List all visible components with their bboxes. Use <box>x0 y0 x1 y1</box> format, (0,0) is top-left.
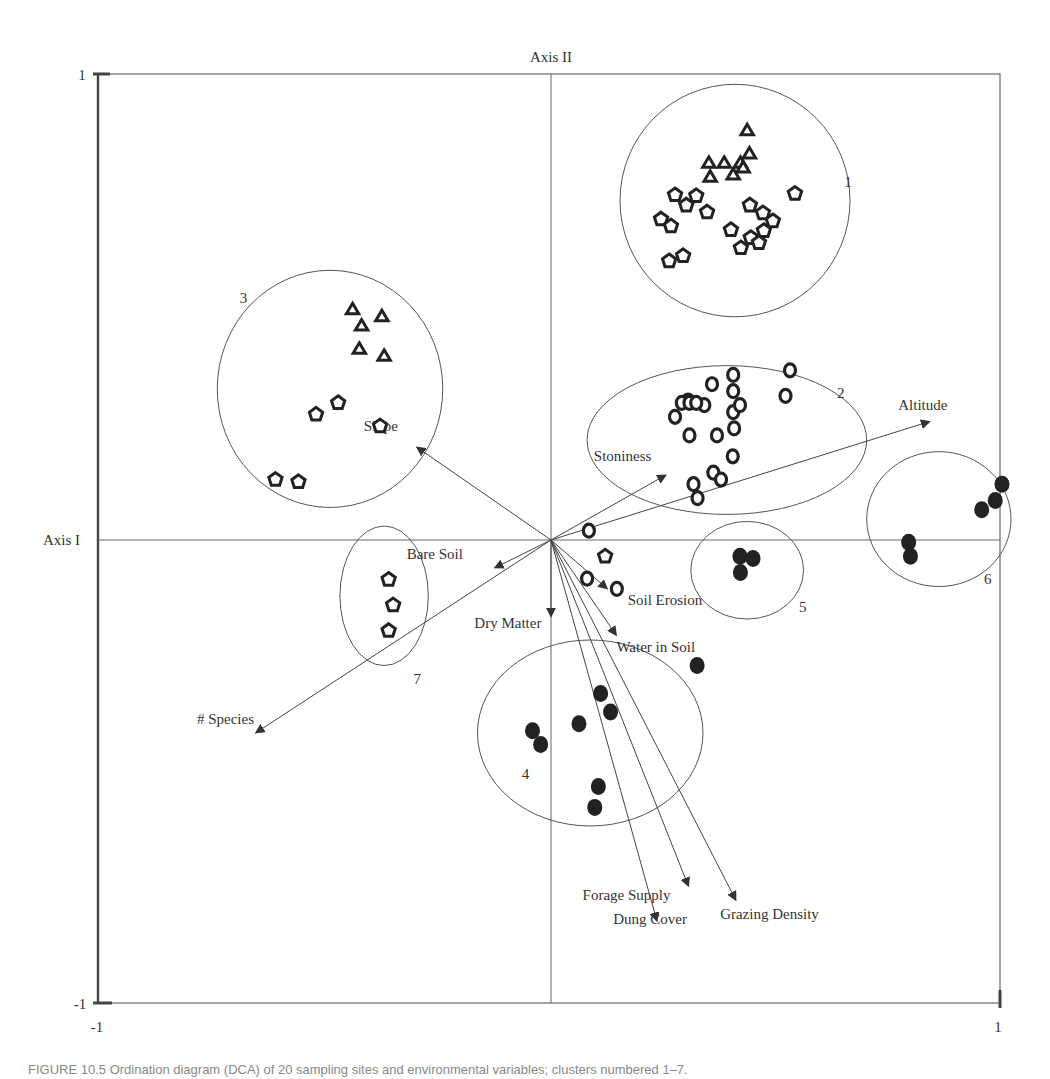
pentagon-marker-icon <box>664 219 677 232</box>
triangle-marker-icon <box>355 320 367 330</box>
circle-marker-icon <box>785 364 796 377</box>
pentagon-marker-icon <box>332 396 345 409</box>
filled-circle-marker-icon <box>732 548 747 565</box>
axis-i-label: Axis I <box>43 532 80 548</box>
circle-marker-icon <box>611 582 622 595</box>
vector-label: Dung Cover <box>613 911 687 927</box>
cluster-label: 1 <box>844 174 852 190</box>
circle-marker-icon <box>727 450 738 463</box>
filled-circle-marker-icon <box>587 799 602 816</box>
series-filled-circle <box>525 476 1009 816</box>
cluster-3: 3 <box>217 270 443 507</box>
pentagon-marker-icon <box>382 624 395 637</box>
pentagon-marker-icon <box>663 254 676 267</box>
cluster-ellipse <box>867 452 1011 587</box>
cluster-label: 3 <box>240 290 248 306</box>
triangle-marker-icon <box>704 171 716 181</box>
pentagon-marker-icon <box>387 598 400 611</box>
vector-label: Forage Supply <box>583 887 671 903</box>
circle-marker-icon <box>583 524 594 537</box>
cluster-label: 6 <box>984 571 992 587</box>
pentagon-marker-icon <box>700 205 713 218</box>
vector-species: # Species <box>197 540 551 733</box>
vector-label: Stoniness <box>594 448 652 464</box>
vector-label: Dry Matter <box>474 615 541 631</box>
vector-stoniness: Stoniness <box>551 448 666 540</box>
series-circle <box>582 364 796 596</box>
cluster-label: 5 <box>799 599 807 615</box>
triangle-marker-icon <box>743 148 755 158</box>
pentagon-marker-icon <box>292 475 305 488</box>
vector-dry-matter: Dry Matter <box>474 540 551 631</box>
circle-marker-icon <box>728 368 739 381</box>
filled-circle-marker-icon <box>593 685 608 702</box>
cluster-label: 7 <box>413 671 421 687</box>
triangle-marker-icon <box>376 310 388 320</box>
y-max-tick-label: 1 <box>78 67 86 83</box>
circle-marker-icon <box>582 572 593 585</box>
circle-marker-icon <box>684 429 695 442</box>
y-min-tick-label: -1 <box>74 996 87 1012</box>
cluster-4: 4 <box>477 640 703 826</box>
pentagon-marker-icon <box>743 198 756 211</box>
vector-label: # Species <box>197 711 254 727</box>
pentagon-marker-icon <box>734 241 747 254</box>
vector-label: Water in Soil <box>616 639 695 655</box>
pentagon-marker-icon <box>668 188 681 201</box>
x-max-tick-label: 1 <box>994 1019 1002 1035</box>
cluster-label: 4 <box>522 766 530 782</box>
pentagon-marker-icon <box>788 187 801 200</box>
circle-marker-icon <box>716 473 727 486</box>
x-min-tick-label: -1 <box>91 1019 104 1035</box>
cluster-label: 2 <box>837 385 845 401</box>
vector-altitude: Altitude <box>551 397 948 540</box>
filled-circle-marker-icon <box>603 704 618 721</box>
cluster-5: 5 <box>691 521 807 619</box>
arrow-icon <box>551 475 666 540</box>
pentagon-marker-icon <box>680 198 693 211</box>
pentagon-marker-icon <box>752 236 765 249</box>
filled-circle-marker-icon <box>690 657 705 674</box>
vector-label: Bare Soil <box>407 546 463 562</box>
circle-marker-icon <box>688 478 699 491</box>
pentagon-marker-icon <box>766 214 779 227</box>
filled-circle-marker-icon <box>746 550 761 567</box>
circle-marker-icon <box>728 385 739 398</box>
filled-circle-marker-icon <box>525 722 540 739</box>
filled-circle-marker-icon <box>974 501 989 518</box>
filled-circle-marker-icon <box>903 548 918 565</box>
vector-label: Altitude <box>898 397 948 413</box>
vector-slope: Slope <box>364 418 551 540</box>
pentagon-marker-icon <box>599 549 612 562</box>
triangle-marker-icon <box>718 157 730 167</box>
pentagon-marker-icon <box>382 573 395 586</box>
environmental-vectors: AltitudeStoninessSlopeBare Soil# Species… <box>197 397 948 927</box>
circle-marker-icon <box>729 422 740 435</box>
triangle-marker-icon <box>378 350 390 360</box>
cluster-ellipse <box>217 270 443 507</box>
filled-circle-marker-icon <box>733 564 748 581</box>
arrow-icon <box>417 447 551 540</box>
filled-circle-marker-icon <box>995 476 1010 493</box>
cluster-ellipse <box>620 84 850 316</box>
circle-marker-icon <box>692 492 703 505</box>
filled-circle-marker-icon <box>533 736 548 753</box>
circle-marker-icon <box>670 410 681 423</box>
series-pentagon <box>269 187 802 637</box>
pentagon-marker-icon <box>309 407 322 420</box>
filled-circle-marker-icon <box>571 715 586 732</box>
pentagon-marker-icon <box>677 249 690 262</box>
figure-caption: FIGURE 10.5 Ordination diagram (DCA) of … <box>28 1062 688 1077</box>
pentagon-marker-icon <box>373 419 386 432</box>
triangle-marker-icon <box>741 124 753 134</box>
filled-circle-marker-icon <box>988 492 1003 509</box>
circle-marker-icon <box>707 378 718 391</box>
circle-marker-icon <box>734 399 745 412</box>
vector-label: Grazing Density <box>720 906 819 922</box>
vector-label: Soil Erosion <box>628 592 703 608</box>
triangle-marker-icon <box>703 157 715 167</box>
cluster-ellipse <box>477 640 703 826</box>
circle-marker-icon <box>780 389 791 402</box>
